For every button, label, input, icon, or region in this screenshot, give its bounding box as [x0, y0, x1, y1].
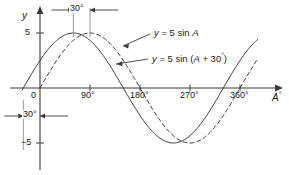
y-axis-label: y	[22, 11, 27, 21]
bottom-dim-arrow-right	[40, 114, 45, 119]
curve-label-sin-a-plus-30: y = 5 sin (A + 30°)	[152, 53, 227, 64]
y-tick-label-5: 5	[25, 28, 30, 37]
y-axis-arrow	[37, 6, 44, 14]
y-tick-label-minus5: −5	[21, 138, 31, 147]
x-tick-label-0: 0	[31, 91, 36, 100]
x-tick-label-90: 90°	[81, 91, 95, 100]
leader-line-sin-a	[123, 34, 150, 46]
x-tick-label-180: 180°	[130, 91, 149, 100]
trigonometry-graph-figure: y A° 5 −5 0 90° 180° 270° 360° 30° 30° y…	[0, 0, 289, 175]
x-axis-label: A°	[272, 92, 281, 103]
plot-canvas	[0, 0, 289, 175]
x-tick-label-360: 360°	[230, 91, 249, 100]
generated-graphics	[4, 6, 283, 170]
leader-arrow-sin-a-30	[116, 62, 123, 67]
curve-label-sin-a: y = 5 sin A	[154, 28, 199, 38]
top-dimension-label: 30°	[69, 4, 85, 13]
top-dim-arrow-right	[90, 8, 95, 13]
bottom-dimension-label: 30°	[22, 110, 38, 119]
x-tick-label-270: 270°	[180, 91, 199, 100]
